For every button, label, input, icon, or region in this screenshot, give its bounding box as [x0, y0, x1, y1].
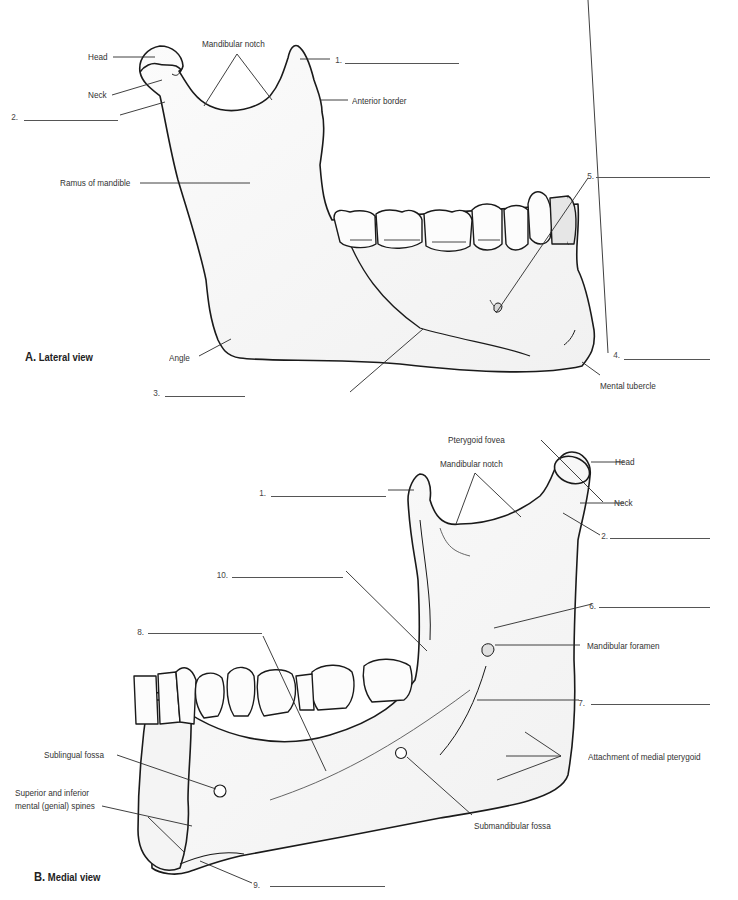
blank-a-1-number: 1. [332, 54, 342, 65]
view-title-lateral: A. Lateral view [25, 349, 93, 364]
label-a-ramus: Ramus of mandible [60, 177, 130, 188]
label-a-head: Head [88, 51, 108, 62]
label-a-anterior-border: Anterior border [352, 95, 407, 106]
medial-view-teeth [134, 659, 412, 724]
blank-b-10-answer-line[interactable] [232, 577, 343, 578]
blank-b-7-number: 7. [576, 697, 585, 708]
blank-b-6-number: 6. [587, 600, 596, 611]
label-b-head: Head [615, 456, 635, 467]
label-b-sublingual-fossa: Sublingual fossa [44, 749, 104, 760]
blank-b-6-answer-line[interactable] [599, 607, 710, 608]
label-b-submandibular-fossa: Submandibular fossa [474, 820, 551, 831]
label-b-pterygoid-fovea: Pterygoid fovea [448, 434, 505, 445]
blank-b-8-number: 8. [135, 626, 144, 637]
blank-a-5-answer-line[interactable] [596, 177, 710, 178]
blank-a-3-number: 3. [150, 387, 160, 398]
lateral-view-teeth [334, 192, 576, 251]
label-b-attachment-medial-pterygoid: Attachment of medial pterygoid [588, 751, 701, 762]
blank-a-2-number: 2. [9, 111, 18, 122]
blank-b-10-number: 10. [213, 569, 228, 580]
blank-b-9-answer-line[interactable] [270, 886, 385, 887]
label-a-mental-tubercle: Mental tubercle [600, 380, 656, 391]
blank-b-1-number: 1. [256, 487, 266, 498]
label-b-neck: Neck [614, 497, 633, 508]
blank-a-3-answer-line[interactable] [165, 396, 245, 397]
label-a-angle: Angle [169, 352, 190, 363]
label-b-mental-spines-line2: mental (genial) spines [15, 800, 95, 811]
view-letter: A. [25, 349, 36, 364]
view-name: Medial view [48, 871, 101, 883]
blank-a-2-answer-line[interactable] [24, 120, 118, 121]
view-title-medial: B. Medial view [34, 869, 100, 884]
blank-b-2-number: 2. [598, 530, 608, 541]
blank-b-1-answer-line[interactable] [271, 496, 386, 497]
label-b-mandibular-foramen: Mandibular foramen [587, 640, 660, 651]
mandible-illustrations [0, 0, 738, 900]
blank-b-7-answer-line[interactable] [591, 704, 710, 705]
blank-b-8-answer-line[interactable] [148, 633, 262, 634]
blank-b-2-answer-line[interactable] [610, 538, 710, 539]
label-b-mandibular-notch: Mandibular notch [440, 458, 503, 469]
blank-b-9-number: 9. [251, 879, 260, 890]
label-b-mental-spines-line1: Superior and inferior [15, 787, 89, 798]
medial-view-mandible [138, 452, 593, 874]
view-name: Lateral view [39, 351, 93, 363]
blank-a-4-answer-line[interactable] [624, 359, 710, 360]
label-a-mandibular-notch: Mandibular notch [202, 38, 265, 49]
view-letter: B. [34, 869, 45, 884]
blank-a-4-number: 4. [601, 349, 620, 360]
blank-a-1-answer-line[interactable] [345, 63, 459, 64]
label-a-neck: Neck [88, 89, 107, 100]
blank-a-5-number: 5. [585, 170, 594, 181]
